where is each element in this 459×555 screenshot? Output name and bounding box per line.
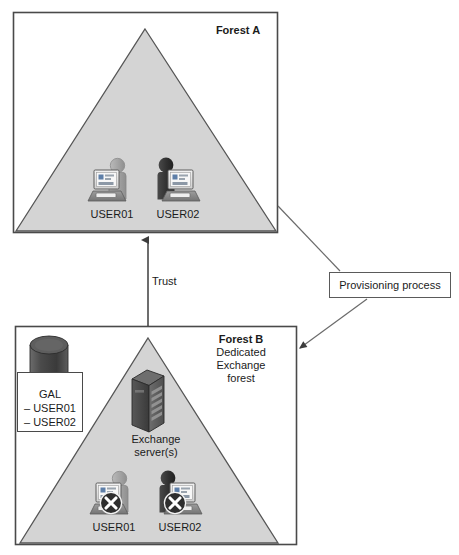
forest-a-user-label: USER01: [84, 208, 140, 221]
forest-b-user-label: USER02: [152, 521, 208, 534]
gal-title: GAL: [17, 388, 83, 401]
provisioning-connector-to-forest-b: [300, 299, 367, 348]
trust-label: Trust: [152, 275, 200, 288]
exchange-server-caption: Exchange server(s): [118, 433, 194, 459]
server-tower-icon: [132, 370, 164, 432]
gal-items: – USER01 – USER02: [24, 401, 84, 429]
forest-b-sublabel: Dedicated Exchange forest: [199, 346, 283, 385]
x-disabled-badge-icon: [100, 492, 121, 513]
forest-a-user-label: USER02: [150, 208, 206, 221]
forest-b-user-label: USER01: [86, 521, 142, 534]
x-disabled-badge-icon: [164, 492, 185, 513]
forest-a-label: Forest A: [198, 24, 278, 37]
provisioning-connector-from-forest-a: [278, 206, 340, 271]
forest-b-label: Forest B: [199, 333, 283, 346]
diagram-canvas: GAL – USER01 – USER02 Provisioning proce…: [0, 0, 459, 555]
provisioning-process-label: Provisioning process: [329, 279, 451, 292]
